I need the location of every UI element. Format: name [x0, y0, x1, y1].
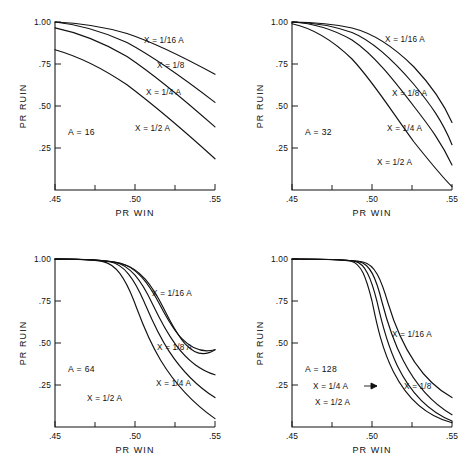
curve-x-1-16a	[292, 259, 452, 398]
curve-x-1-16a	[292, 22, 452, 122]
y-tick-label-1: 1.00	[271, 254, 288, 264]
curve-x-1-4a	[55, 259, 215, 398]
y-tick-label-4: .25	[276, 143, 288, 153]
y-tick-label-3: .50	[39, 338, 51, 348]
axis-frame	[292, 22, 452, 190]
curve-label-x-1-2a: X = 1/2 A	[315, 398, 351, 407]
x-tick-label-2: .50	[366, 194, 378, 204]
panel-annotation: A = 128	[305, 364, 337, 374]
y-tick-label-2: .75	[39, 59, 51, 69]
y-tick-label-3: .50	[276, 101, 288, 111]
y-axis-title: PR RUIN	[18, 84, 28, 129]
y-tick-label-1: 1.00	[34, 254, 51, 264]
x-tick-label-3: .55	[446, 431, 458, 441]
curve-label-x-1-4a: X = 1/4 A	[387, 124, 423, 133]
y-tick-label-2: .75	[39, 296, 51, 306]
y-tick-label-3: .50	[276, 338, 288, 348]
curve-x-1-8a	[55, 259, 215, 375]
x-tick-label-2: .50	[129, 431, 141, 441]
panel-a16: 1.00 .75 .50 .25 .45 .50 .55 PR WIN PR R…	[0, 0, 236, 237]
curve-label-x-1-4a: X = 1/4 A	[313, 382, 349, 391]
curve-label-x-1-4a: X = 1/4 A	[146, 88, 182, 97]
y-tick-label-4: .25	[39, 380, 51, 390]
panel-a64: 1.00 .75 .50 .25 .45 .50 .55 PR WIN PR R…	[0, 237, 236, 474]
x-axis-title: PR WIN	[352, 208, 391, 218]
x-axis-ticks	[292, 184, 452, 190]
ruin-probability-figure: 1.00 .75 .50 .25 .45 .50 .55 PR WIN PR R…	[0, 0, 473, 474]
y-axis-ticks	[292, 22, 298, 148]
curve-x-1-2a	[292, 24, 452, 187]
panel-a128: 1.00 .75 .50 .25 .45 .50 .55 PR WIN PR R…	[237, 237, 473, 474]
y-axis-title: PR RUIN	[18, 321, 28, 366]
panel-a32: 1.00 .75 .50 .25 .45 .50 .55 PR WIN PR R…	[237, 0, 473, 237]
panel-a16-plot: 1.00 .75 .50 .25 .45 .50 .55 PR WIN PR R…	[0, 0, 236, 237]
y-axis-ticks	[55, 22, 61, 148]
panel-annotation: A = 32	[305, 127, 332, 137]
x-tick-label-2: .50	[366, 431, 378, 441]
pointer-arrow-icon	[364, 383, 377, 389]
curve-label-x-1-2a: X = 1/2 A	[135, 124, 171, 133]
panel-a64-plot: 1.00 .75 .50 .25 .45 .50 .55 PR WIN PR R…	[0, 237, 236, 474]
curve-x-1-16a	[55, 259, 215, 354]
panel-annotation: A = 16	[68, 127, 95, 137]
curve-x-1-2a	[55, 50, 215, 159]
x-tick-label-3: .55	[209, 431, 221, 441]
panel-annotation: A = 64	[68, 364, 95, 374]
x-tick-label-1: .45	[49, 431, 61, 441]
x-tick-label-1: .45	[286, 194, 298, 204]
x-axis-ticks	[55, 184, 215, 190]
x-axis-ticks	[55, 421, 215, 427]
curve-label-x-1-8: X = 1/8	[404, 382, 432, 391]
curve-label-x-1-8: X = 1/8	[157, 61, 185, 70]
y-tick-label-2: .75	[276, 59, 288, 69]
curve-x-1-16a	[55, 22, 215, 74]
x-tick-label-2: .50	[129, 194, 141, 204]
x-axis-title: PR WIN	[115, 208, 154, 218]
curve-label-x-1-2a: X = 1/2 A	[87, 394, 123, 403]
curve-label-x-1-4a: X = 1/4 A	[156, 379, 192, 388]
x-tick-label-1: .45	[49, 194, 61, 204]
x-tick-label-3: .55	[209, 194, 221, 204]
curve-label-x-1-8a: X = 1/8 A	[157, 343, 193, 352]
curve-label-x-1-8a: X = 1/8 A	[392, 89, 428, 98]
curve-label-x-1-16a: X = 1/16 A	[152, 289, 192, 298]
x-axis-title: PR WIN	[352, 445, 391, 455]
panel-a32-plot: 1.00 .75 .50 .25 .45 .50 .55 PR WIN PR R…	[237, 0, 473, 237]
curve-x-1-4a	[55, 28, 215, 127]
x-axis-title: PR WIN	[115, 445, 154, 455]
y-tick-label-3: .50	[39, 101, 51, 111]
panel-a128-plot: 1.00 .75 .50 .25 .45 .50 .55 PR WIN PR R…	[237, 237, 473, 474]
y-axis-ticks	[55, 259, 61, 385]
y-axis-title: PR RUIN	[255, 84, 265, 129]
curve-label-x-1-2a: X = 1/2 A	[377, 158, 413, 167]
y-axis-ticks	[292, 259, 298, 385]
x-tick-label-1: .45	[286, 431, 298, 441]
x-tick-label-3: .55	[446, 194, 458, 204]
y-tick-label-4: .25	[276, 380, 288, 390]
y-tick-label-1: 1.00	[271, 17, 288, 27]
y-axis-title: PR RUIN	[255, 321, 265, 366]
y-tick-label-2: .75	[276, 296, 288, 306]
y-tick-label-4: .25	[39, 143, 51, 153]
y-tick-label-1: 1.00	[34, 17, 51, 27]
curve-label-x-1-16a: X = 1/16 A	[144, 36, 184, 45]
curve-label-x-1-16a: X = 1/16 A	[385, 35, 425, 44]
curve-label-x-1-16a: X = 1/16 A	[392, 330, 432, 339]
x-axis-ticks	[292, 421, 452, 427]
